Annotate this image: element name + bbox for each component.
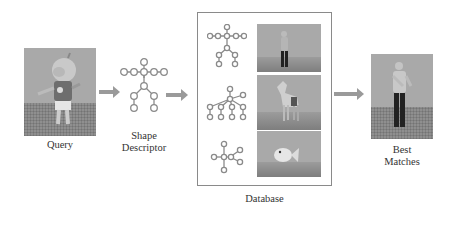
arrow-database-to-best-matches — [334, 92, 358, 96]
arrow-descriptor-to-database — [166, 93, 182, 97]
database-graph-quadruped — [205, 85, 249, 127]
best-matches-label: Best Matches — [366, 144, 438, 168]
cartoon-character-figure — [24, 48, 96, 136]
best-match-model-image — [371, 54, 433, 139]
shape-descriptor-label-line-2: Descriptor — [112, 142, 176, 154]
query-model-image — [24, 48, 96, 136]
best-matches-label-line-1: Best — [366, 144, 438, 156]
arrow-query-to-descriptor — [99, 90, 114, 94]
database-graph-star — [210, 140, 246, 174]
database-model-fish — [257, 131, 321, 177]
database-model-horse — [257, 75, 321, 130]
best-matches-label-line-2: Matches — [366, 156, 438, 168]
database-graph-humanoid — [207, 24, 247, 68]
shape-descriptor-label: Shape Descriptor — [112, 130, 176, 154]
database-model-human — [257, 24, 321, 72]
database-label: Database — [197, 193, 332, 205]
shape-descriptor-label-line-1: Shape — [112, 130, 176, 142]
shape-descriptor-graph — [120, 58, 168, 114]
query-label: Query — [24, 139, 96, 151]
